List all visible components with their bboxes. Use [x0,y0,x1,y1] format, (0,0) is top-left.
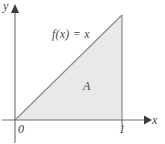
x-axis-arrow-icon [144,116,152,125]
function-label: f(x) = x [52,28,90,40]
x-axis-label: x [152,114,157,126]
area-label: A [83,80,90,92]
x-tick-label-one: 1 [119,123,125,135]
y-axis-arrow-icon [11,4,19,13]
y-axis-label: y [3,0,8,12]
area-under-curve-figure: y x f(x) = x A 0 1 [0,0,165,144]
origin-tick-label: 0 [18,123,24,135]
figure-canvas [0,0,165,144]
